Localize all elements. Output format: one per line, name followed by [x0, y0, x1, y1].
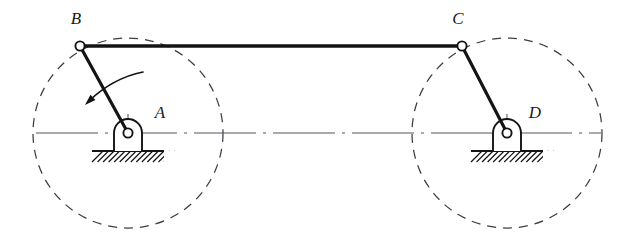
links-group	[80, 46, 507, 133]
label-c: C	[452, 9, 464, 28]
ground-hatch-line	[526, 151, 537, 162]
joint-a	[123, 128, 132, 137]
ground-hatch-line	[125, 151, 136, 162]
ground-hatch-line	[131, 151, 142, 162]
ground-support-a	[92, 119, 177, 164]
link-crank-dc	[462, 46, 507, 133]
joint-d	[502, 128, 511, 137]
label-d: D	[528, 103, 542, 122]
ground-hatch-line	[521, 151, 532, 162]
ground-hatch-line	[471, 151, 482, 162]
ground-hatch-line	[103, 151, 114, 162]
ground-hatch-line	[120, 151, 131, 162]
ground-hatch-line	[515, 151, 526, 162]
linkage-svg: B C A D	[0, 0, 632, 243]
ground-support-d	[471, 119, 556, 164]
ground-hatch-line	[510, 151, 521, 162]
label-b: B	[71, 9, 82, 28]
joint-b	[75, 41, 84, 50]
ground-hatch-line	[477, 151, 488, 162]
joint-c	[457, 41, 466, 50]
ground-hatch-line	[153, 151, 164, 162]
label-a: A	[154, 103, 166, 122]
joints-group	[75, 41, 511, 137]
ground-supports-group	[92, 119, 556, 164]
rotation-arrow-group	[85, 72, 143, 105]
mechanism-diagram: B C A D	[0, 0, 632, 243]
ground-hatch-line	[482, 151, 493, 162]
ground-hatch-line	[147, 151, 158, 162]
hatch-clip-mask	[543, 151, 556, 164]
ground-hatch-line	[504, 151, 515, 162]
ground-hatch-line	[114, 151, 125, 162]
ground-hatch-line	[92, 151, 103, 162]
ground-hatch-line	[109, 151, 120, 162]
hatch-clip-mask	[164, 151, 177, 164]
ground-hatch-line	[499, 151, 510, 162]
ground-hatch-line	[98, 151, 109, 162]
ground-hatch-line	[488, 151, 499, 162]
ground-hatch-line	[493, 151, 504, 162]
ground-hatch-line	[136, 151, 147, 162]
ground-hatch-line	[532, 151, 543, 162]
ground-hatch-line	[142, 151, 153, 162]
